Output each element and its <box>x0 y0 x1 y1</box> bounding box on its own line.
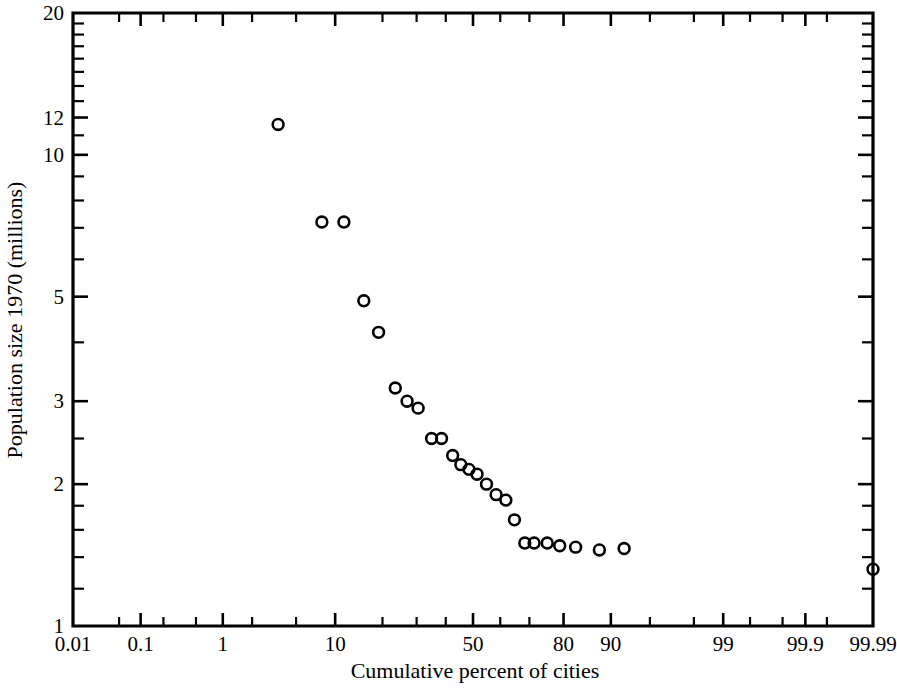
x-axis-title: Cumulative percent of cities <box>351 658 600 683</box>
data-point <box>570 542 581 553</box>
data-point <box>554 540 565 551</box>
x-tick-label: 90 <box>600 632 621 656</box>
y-axis-tick-labels: 2012105321 <box>43 1 64 638</box>
data-point <box>447 450 458 461</box>
y-axis-ticks <box>73 23 873 588</box>
x-tick-label: 0.1 <box>128 632 154 656</box>
data-point <box>619 543 630 554</box>
y-tick-label: 10 <box>43 143 64 167</box>
x-tick-label: 99.9 <box>787 632 824 656</box>
data-point <box>500 495 511 506</box>
x-tick-label: 50 <box>463 632 484 656</box>
axis-box <box>73 13 873 626</box>
data-point <box>390 383 401 394</box>
x-axis-tick-labels: 0.010.11105080909999.999.99 <box>55 632 897 656</box>
x-tick-label: 99 <box>713 632 734 656</box>
x-tick-label: 99.99 <box>849 632 896 656</box>
data-point <box>509 514 520 525</box>
y-tick-label: 2 <box>54 472 65 496</box>
data-point <box>481 479 492 490</box>
x-tick-label: 1 <box>218 632 229 656</box>
data-point <box>413 403 424 414</box>
data-point <box>594 545 605 556</box>
y-axis-title: Population size 1970 (millions) <box>2 182 27 459</box>
plot-canvas: 0.010.11105080909999.999.99 2012105321 C… <box>0 0 897 689</box>
x-tick-label: 80 <box>553 632 574 656</box>
probability-plot-figure: 0.010.11105080909999.999.99 2012105321 C… <box>0 0 897 689</box>
y-tick-label: 20 <box>43 1 64 25</box>
y-tick-label: 12 <box>43 106 64 130</box>
y-tick-label: 5 <box>54 285 65 309</box>
data-point-markers <box>273 119 879 575</box>
x-tick-label: 10 <box>325 632 346 656</box>
data-point <box>273 119 284 130</box>
x-axis-ticks <box>119 13 827 626</box>
data-point <box>338 217 349 228</box>
data-point <box>402 396 413 407</box>
data-point <box>542 538 553 549</box>
data-point <box>358 295 369 306</box>
y-tick-label: 3 <box>54 389 65 413</box>
data-point <box>316 217 327 228</box>
data-point <box>373 327 384 338</box>
y-tick-label: 1 <box>54 614 65 638</box>
axis-frame <box>73 13 873 626</box>
